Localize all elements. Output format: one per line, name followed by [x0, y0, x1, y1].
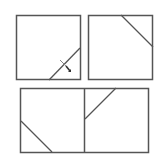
scissors-icon	[60, 60, 71, 72]
square-top-left	[17, 16, 81, 81]
rect-bottom	[21, 88, 149, 153]
panel-border	[89, 16, 153, 80]
fold-line	[21, 121, 52, 152]
fold-line	[121, 15, 153, 47]
cut-arrow	[66, 66, 70, 71]
fold-cut-diagram	[0, 0, 161, 162]
square-top-right	[89, 15, 154, 80]
fold-line	[85, 88, 116, 119]
